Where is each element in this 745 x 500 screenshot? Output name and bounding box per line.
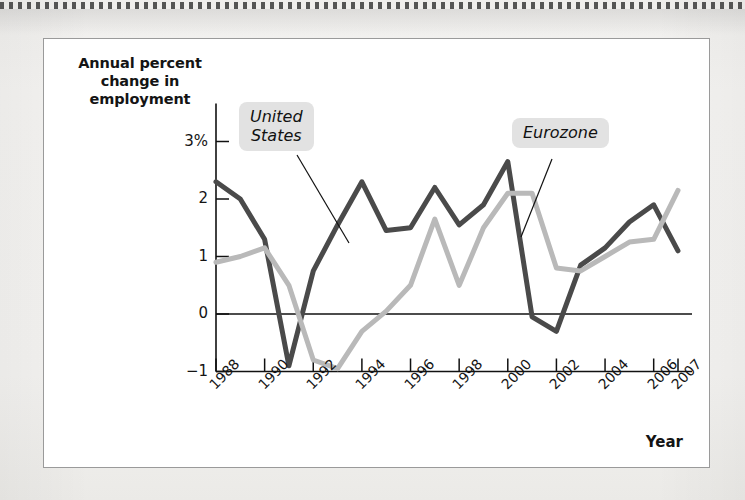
- plot-area: Annual percent change in employment −101…: [44, 39, 711, 469]
- chart-series: [216, 162, 678, 369]
- callout-united-states: United States: [239, 102, 314, 151]
- leader-line-eurozone: [521, 159, 552, 237]
- series-line-united-states: [216, 162, 678, 366]
- employment-line-chart: [44, 39, 711, 469]
- x-axis-title: Year: [646, 433, 683, 451]
- y-tick-label: −1: [162, 362, 208, 380]
- scanner-dot-strip: [0, 2, 745, 9]
- y-tick-label: 1: [162, 247, 208, 265]
- y-tick-label: 3%: [162, 132, 208, 150]
- leader-line-united-states: [297, 155, 349, 243]
- scanner-shadow: [0, 9, 745, 35]
- y-tick-label: 2: [162, 189, 208, 207]
- callout-eurozone: Eurozone: [512, 118, 609, 148]
- figure-frame: Annual percent change in employment −101…: [43, 38, 710, 468]
- y-tick-label: 0: [162, 304, 208, 322]
